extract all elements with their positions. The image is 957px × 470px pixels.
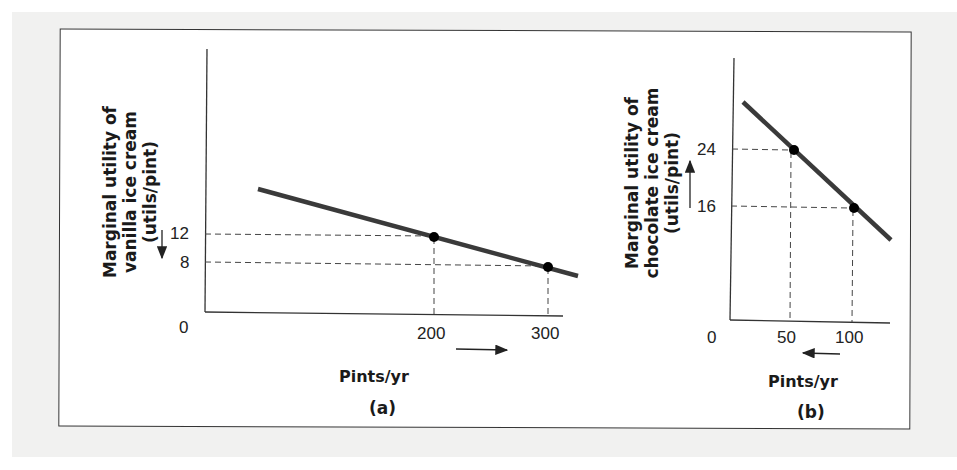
- panel-a-x-axis-label: Pints/yr: [339, 367, 409, 386]
- panel-a-x-tick-0: 0: [179, 318, 188, 338]
- panel-a-y-tick-8: 8: [180, 253, 189, 273]
- panel-a-right-arrow-icon: [456, 349, 507, 350]
- panel-b-y-tick-16: 16: [697, 197, 716, 217]
- panel-b-y-axis-label: Marginal utility of chocolate ice cream …: [622, 63, 688, 303]
- panel-a-x-tick-300: 300: [531, 324, 559, 344]
- panel-b-point-100: [849, 203, 859, 213]
- panel-a-guides: [205, 234, 548, 316]
- panel-b-left-arrow-icon: [803, 353, 840, 354]
- panel-a-y-tick-12: 12: [170, 224, 189, 244]
- panel-b-x-tick-0: 0: [707, 328, 716, 348]
- panel-a-point-300: [543, 262, 553, 272]
- panel-a-y-axis: [205, 49, 207, 312]
- panel-a-caption: (a): [369, 398, 396, 418]
- panel-b-x-tick-50: 50: [777, 328, 796, 348]
- panel-b-curve: [743, 102, 891, 240]
- panel-a-point-200: [429, 232, 439, 242]
- panel-b-x-axis: [730, 320, 890, 323]
- panel-b-y-tick-24: 24: [697, 140, 716, 160]
- panel-a-y-axis-label: Marginal utility of vanilla ice cream (u…: [100, 83, 166, 301]
- panel-b-y-axis: [730, 58, 734, 320]
- panel-b-x-axis-label: Pints/yr: [768, 372, 838, 391]
- panel-b-x-tick-100: 100: [835, 328, 863, 348]
- panel-a-x-axis: [205, 312, 563, 316]
- panel-a-x-tick-200: 200: [417, 324, 445, 344]
- panel-a-plot: [162, 49, 578, 350]
- panel-b-caption: (b): [797, 402, 825, 422]
- panel-b-point-50: [789, 145, 799, 155]
- panel-b-plot: [690, 58, 891, 354]
- panel-b-guides: [731, 149, 853, 322]
